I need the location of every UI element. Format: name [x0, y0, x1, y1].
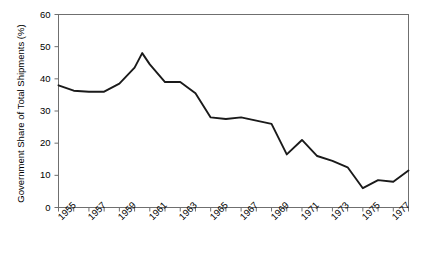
y-tick-label: 0 [29, 203, 51, 213]
y-tick-label: 60 [29, 10, 51, 20]
y-tick-label: 50 [29, 42, 51, 52]
y-axis-ticks [55, 15, 59, 208]
data-series-group [59, 53, 409, 188]
y-tick-label: 40 [29, 74, 51, 84]
y-tick-label: 10 [29, 170, 51, 180]
line-chart: Government Share of Total Shipments (%) … [0, 0, 436, 255]
y-tick-label: 20 [29, 138, 51, 148]
data-line-government-share [59, 53, 409, 188]
y-tick-label: 30 [29, 106, 51, 116]
x-axis-ticks [59, 208, 409, 212]
